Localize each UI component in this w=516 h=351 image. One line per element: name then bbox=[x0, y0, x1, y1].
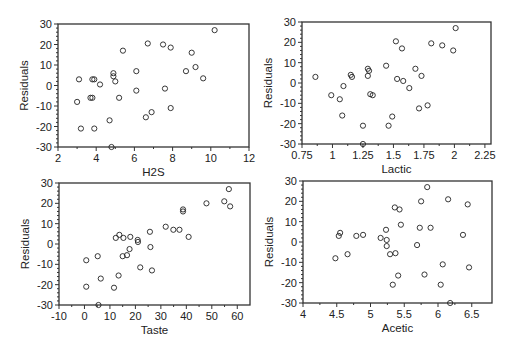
data-point bbox=[451, 48, 456, 53]
y-tick-label: 30 bbox=[285, 175, 297, 187]
data-point bbox=[228, 204, 233, 209]
data-point bbox=[329, 93, 334, 98]
y-tick-label: 10 bbox=[40, 59, 52, 71]
data-point bbox=[113, 79, 118, 84]
data-point bbox=[419, 73, 424, 78]
data-point bbox=[417, 225, 422, 230]
data-point bbox=[384, 237, 389, 242]
data-point bbox=[360, 123, 365, 128]
x-tick-label: 2 bbox=[451, 149, 457, 161]
plot-frame bbox=[303, 181, 492, 303]
y-tick-label: 0 bbox=[290, 77, 296, 89]
x-tick-label: 10 bbox=[104, 310, 116, 322]
y-tick-label: 0 bbox=[291, 236, 297, 248]
data-point bbox=[333, 256, 338, 261]
y-tick-label: -20 bbox=[37, 279, 53, 291]
data-point bbox=[143, 115, 148, 120]
data-point bbox=[338, 230, 343, 235]
x-axis-label: Taste bbox=[141, 324, 169, 336]
y-tick-label: 10 bbox=[41, 218, 53, 230]
x-tick-label: 10 bbox=[205, 152, 217, 164]
data-point bbox=[399, 46, 404, 51]
data-point bbox=[365, 73, 370, 78]
data-point bbox=[171, 227, 176, 232]
data-point bbox=[419, 199, 424, 204]
x-tick-label: 8 bbox=[170, 152, 176, 164]
data-point bbox=[111, 285, 116, 290]
data-point bbox=[460, 232, 465, 237]
x-tick-label: 6.5 bbox=[464, 308, 479, 320]
data-point bbox=[113, 235, 118, 240]
x-tick-label: 20 bbox=[129, 310, 141, 322]
data-point bbox=[212, 28, 217, 33]
data-point bbox=[193, 64, 198, 69]
data-point bbox=[384, 63, 389, 68]
data-point bbox=[383, 227, 388, 232]
scatter-panel-taste: -30-20-100102030-100102030405060TasteRes… bbox=[19, 177, 250, 336]
data-point bbox=[226, 187, 231, 192]
data-point bbox=[387, 252, 392, 257]
data-point bbox=[345, 252, 350, 257]
y-tick-label: 20 bbox=[40, 39, 52, 51]
data-point bbox=[149, 268, 154, 273]
data-point bbox=[428, 225, 433, 230]
data-point bbox=[84, 284, 89, 289]
y-tick-label: 20 bbox=[285, 195, 297, 207]
data-point bbox=[222, 199, 227, 204]
x-tick-label: 1 bbox=[329, 149, 335, 161]
x-tick-label: 1.25 bbox=[352, 149, 373, 161]
data-point bbox=[337, 97, 342, 102]
data-point bbox=[78, 126, 83, 131]
data-point bbox=[163, 224, 168, 229]
data-point bbox=[397, 207, 402, 212]
x-tick-label: 5 bbox=[367, 308, 373, 320]
data-point bbox=[465, 202, 470, 207]
y-axis-label: Residuals bbox=[19, 219, 31, 270]
data-point bbox=[189, 50, 194, 55]
y-tick-label: -20 bbox=[36, 121, 52, 133]
x-tick-label: 2 bbox=[55, 152, 61, 164]
x-tick-label: 0.75 bbox=[291, 149, 312, 161]
y-tick-label: 30 bbox=[40, 18, 52, 30]
x-tick-label: 12 bbox=[243, 152, 255, 164]
x-tick-label: 1.5 bbox=[386, 149, 401, 161]
data-point bbox=[76, 77, 81, 82]
data-point bbox=[134, 88, 139, 93]
data-point bbox=[162, 86, 167, 91]
data-point bbox=[414, 242, 419, 247]
data-point bbox=[75, 99, 80, 104]
data-point bbox=[336, 233, 341, 238]
x-tick-label: 40 bbox=[180, 310, 192, 322]
data-point bbox=[393, 251, 398, 256]
plot-frame bbox=[58, 24, 249, 147]
data-point bbox=[398, 222, 403, 227]
data-point bbox=[354, 233, 359, 238]
data-point bbox=[340, 113, 345, 118]
data-point bbox=[120, 48, 125, 53]
data-point bbox=[128, 234, 133, 239]
data-point bbox=[395, 76, 400, 81]
data-point bbox=[453, 26, 458, 31]
data-point bbox=[390, 282, 395, 287]
y-tick-label: 20 bbox=[284, 36, 296, 48]
data-point bbox=[84, 258, 89, 263]
x-axis-label: Acetic bbox=[382, 322, 414, 334]
y-tick-label: -30 bbox=[281, 297, 297, 309]
y-tick-label: 0 bbox=[47, 238, 53, 250]
data-point bbox=[438, 282, 443, 287]
data-point bbox=[98, 276, 103, 281]
data-point bbox=[425, 185, 430, 190]
data-point bbox=[107, 118, 112, 123]
x-tick-label: 6 bbox=[435, 308, 441, 320]
data-point bbox=[390, 114, 395, 119]
data-point bbox=[111, 74, 116, 79]
data-point bbox=[186, 234, 191, 239]
data-point bbox=[396, 273, 401, 278]
y-tick-label: 30 bbox=[41, 177, 53, 189]
y-tick-label: -30 bbox=[36, 141, 52, 153]
data-point bbox=[440, 262, 445, 267]
y-tick-label: 0 bbox=[46, 80, 52, 92]
scatter-panel-lactic: -30-20-1001020300.7511.251.51.7522.25Lac… bbox=[262, 16, 496, 175]
data-point bbox=[429, 41, 434, 46]
y-tick-label: -10 bbox=[36, 100, 52, 112]
